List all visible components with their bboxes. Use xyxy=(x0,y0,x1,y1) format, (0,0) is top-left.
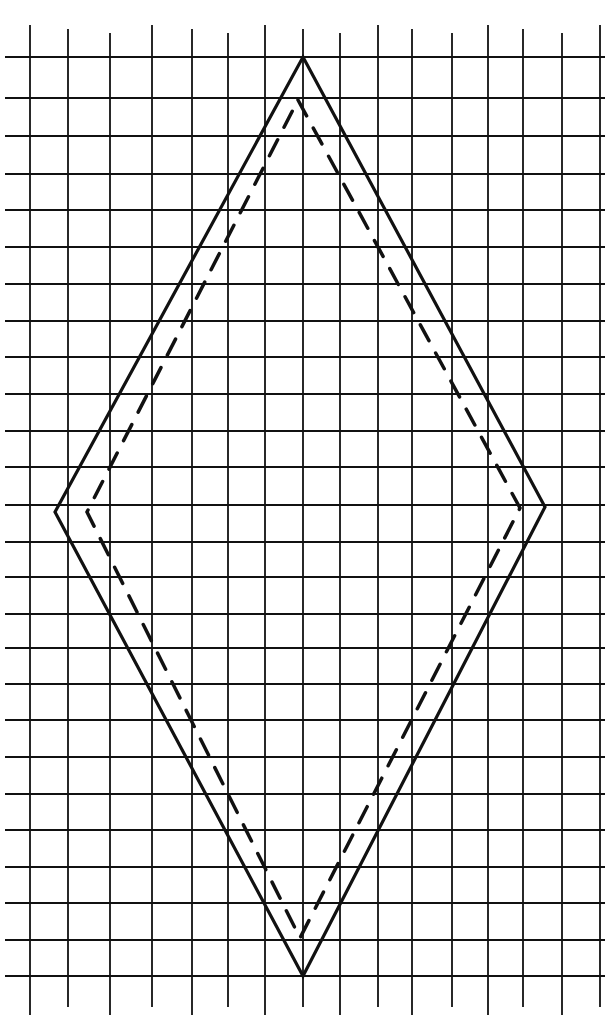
grid-lines xyxy=(5,25,605,1015)
outer-diamond xyxy=(55,57,545,976)
diagram-svg xyxy=(0,0,613,1028)
diamond-shapes xyxy=(55,57,545,976)
graph-paper-diagram xyxy=(0,0,613,1028)
